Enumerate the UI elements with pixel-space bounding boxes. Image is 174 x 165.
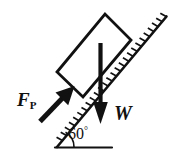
applied-force-symbol: F: [17, 89, 30, 110]
angle-label: 60°: [68, 126, 88, 142]
applied-force-subscript: P: [30, 99, 37, 111]
block-body: [57, 14, 131, 97]
angle-value: 60: [68, 125, 84, 142]
weight-label: W: [114, 103, 132, 123]
incline-hatching: [57, 13, 167, 140]
free-body-diagram-figure: FP W 60°: [0, 0, 174, 165]
degree-symbol: °: [84, 125, 88, 136]
applied-force-vector-arrow: [40, 86, 75, 122]
applied-force-label: FP: [17, 90, 36, 111]
